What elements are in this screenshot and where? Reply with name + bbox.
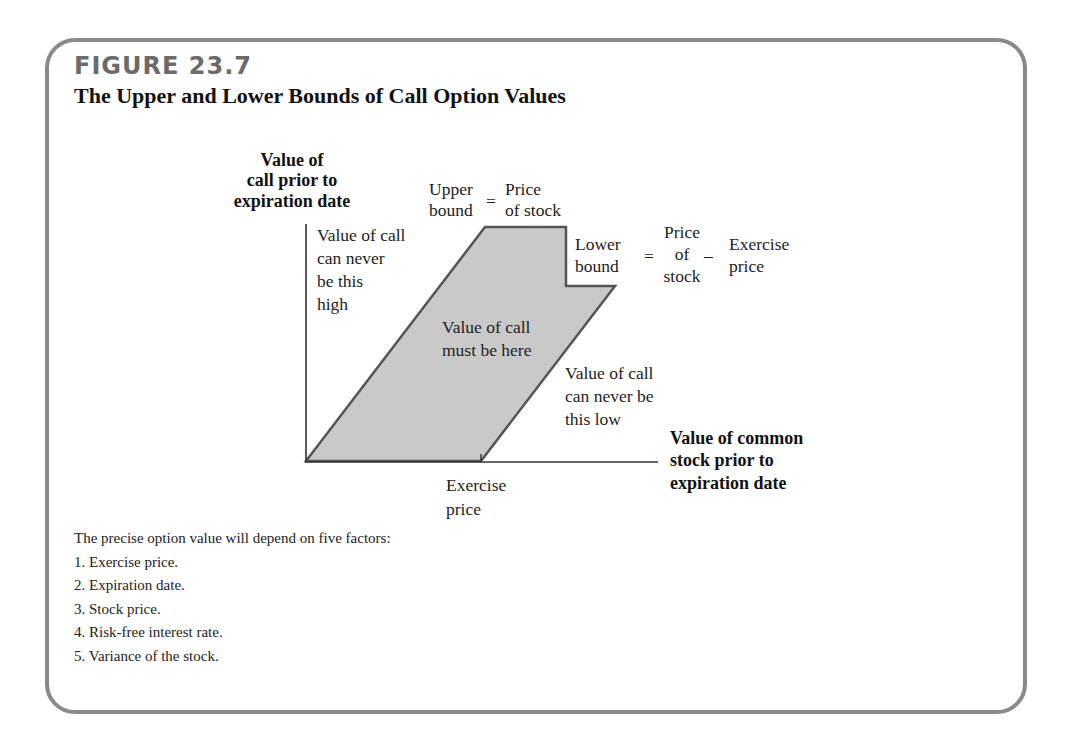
factor-item: 5. Variance of the stock. [74, 645, 391, 669]
svg-text:=: = [486, 191, 496, 211]
svg-text:price: price [729, 256, 764, 276]
lower-bound-equation: Lower bound = Price of stock – Exercise … [575, 222, 789, 286]
factor-item: 1. Exercise price. [74, 551, 391, 575]
svg-text:expiration date: expiration date [670, 473, 787, 493]
svg-text:price: price [446, 499, 481, 519]
svg-text:high: high [317, 294, 348, 314]
svg-text:Price: Price [664, 222, 700, 242]
factor-item: 2. Expiration date. [74, 574, 391, 598]
notes: The precise option value will depend on … [74, 527, 391, 668]
svg-text:stock prior to: stock prior to [670, 450, 774, 470]
region-below-label: Value of call can never be this low [565, 363, 654, 429]
region-above-label: Value of call can never be this high [317, 225, 406, 314]
svg-text:Value of common: Value of common [670, 428, 803, 448]
svg-text:bound: bound [429, 200, 473, 220]
svg-text:Value of call: Value of call [442, 317, 531, 337]
svg-text:Exercise: Exercise [729, 234, 789, 254]
svg-text:Exercise: Exercise [446, 475, 506, 495]
svg-text:expiration date: expiration date [234, 191, 351, 211]
svg-text:must be here: must be here [442, 340, 532, 360]
svg-text:can never be: can never be [565, 386, 654, 406]
svg-text:Lower: Lower [575, 234, 621, 254]
svg-text:be this: be this [317, 271, 363, 291]
svg-text:Value of: Value of [261, 150, 325, 170]
svg-text:can never: can never [317, 248, 385, 268]
svg-text:Upper: Upper [429, 179, 473, 199]
upper-bound-equation: Upper bound = Price of stock [429, 179, 561, 220]
notes-intro: The precise option value will depend on … [74, 527, 391, 551]
x-axis-label: Value of common stock prior to expiratio… [670, 428, 803, 493]
svg-text:of stock: of stock [505, 200, 561, 220]
svg-text:–: – [703, 245, 713, 265]
svg-text:bound: bound [575, 256, 619, 276]
svg-text:stock: stock [664, 266, 701, 286]
y-axis-label: Value of call prior to expiration date [234, 150, 351, 211]
factor-item: 4. Risk-free interest rate. [74, 621, 391, 645]
svg-text:of: of [675, 244, 690, 264]
factor-item: 3. Stock price. [74, 598, 391, 622]
svg-text:Value of call: Value of call [317, 225, 406, 245]
svg-text:Price: Price [505, 179, 541, 199]
exercise-price-label: Exercise price [446, 475, 506, 519]
svg-text:=: = [644, 246, 654, 266]
svg-text:this low: this low [565, 409, 621, 429]
svg-text:Value of call: Value of call [565, 363, 654, 383]
svg-text:call prior to: call prior to [247, 170, 338, 190]
